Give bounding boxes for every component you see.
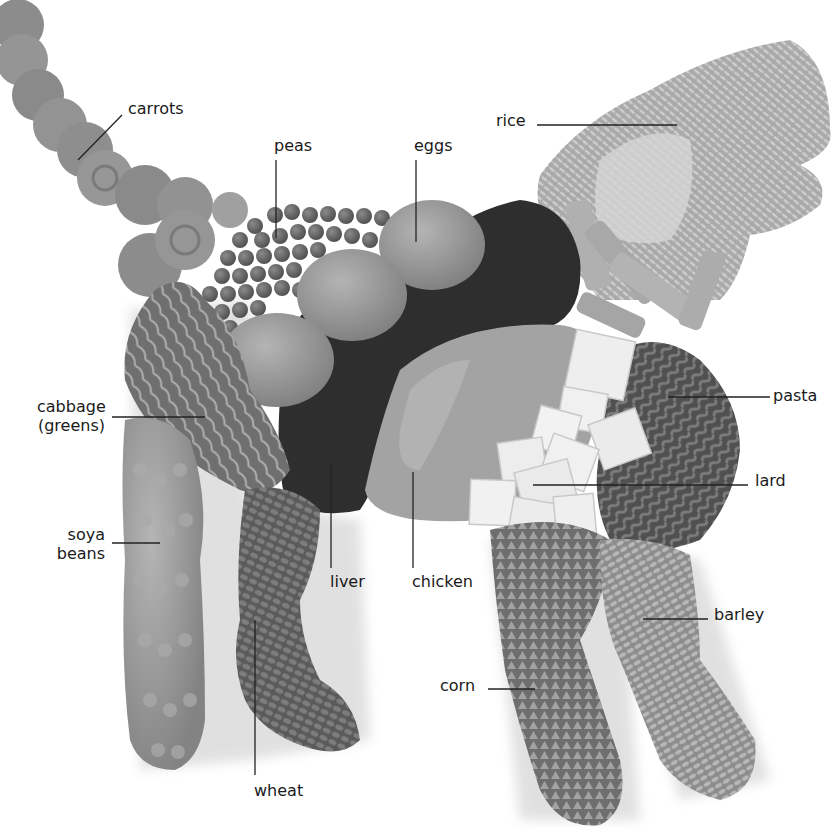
food-dog-diagram: carrots peas eggs rice pasta cabbage (gr… xyxy=(0,0,837,838)
label-wheat: wheat xyxy=(254,781,303,800)
label-liver: liver xyxy=(330,572,365,591)
label-soya-line1: soya xyxy=(50,525,105,544)
label-lard: lard xyxy=(755,471,786,490)
label-cabbage-line1: cabbage xyxy=(37,397,105,416)
label-soya-line2: beans xyxy=(50,544,105,563)
label-rice: rice xyxy=(496,111,526,130)
label-chicken: chicken xyxy=(412,572,473,591)
label-carrots: carrots xyxy=(128,99,184,118)
label-pasta: pasta xyxy=(773,386,817,405)
label-soya-beans: soya beans xyxy=(50,525,105,563)
label-barley: barley xyxy=(714,605,764,624)
carrots-region xyxy=(0,0,248,297)
label-peas: peas xyxy=(274,136,312,155)
label-cabbage: cabbage (greens) xyxy=(37,397,105,435)
label-cabbage-line2: (greens) xyxy=(37,416,105,435)
label-corn: corn xyxy=(440,676,475,695)
food-dog-illustration xyxy=(0,0,837,838)
label-eggs: eggs xyxy=(414,136,453,155)
